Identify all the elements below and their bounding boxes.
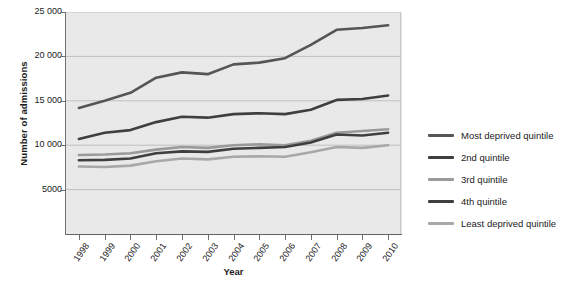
x-tick-label: 2004: [223, 241, 246, 268]
y-tick-mark: [60, 101, 66, 102]
y-tick-label: 5000: [18, 184, 62, 194]
x-tick-mark: [79, 235, 80, 240]
x-tick-label: 2007: [300, 241, 323, 268]
legend-label: 2nd quintile: [461, 152, 510, 163]
legend-item[interactable]: 2nd quintile: [428, 146, 568, 168]
legend-label: 3rd quintile: [461, 174, 507, 185]
x-tick-mark: [156, 235, 157, 240]
x-tick-mark: [362, 235, 363, 240]
y-tick-mark: [60, 190, 66, 191]
x-tick-mark: [182, 235, 183, 240]
x-tick-mark: [285, 235, 286, 240]
x-tick-label: 2001: [145, 241, 168, 268]
x-tick-mark: [234, 235, 235, 240]
x-tick-mark: [388, 235, 389, 240]
legend-swatch-icon: [428, 222, 454, 225]
legend-label: 4th quintile: [461, 196, 507, 207]
legend-item[interactable]: 3rd quintile: [428, 168, 568, 190]
legend-swatch-icon: [428, 200, 454, 203]
y-tick-label: 15 000: [18, 95, 62, 105]
x-tick-mark: [337, 235, 338, 240]
x-tick-mark: [208, 235, 209, 240]
y-tick-mark: [60, 12, 66, 13]
x-tick-label: 2010: [377, 241, 400, 268]
plot-area: [66, 12, 401, 234]
x-tick-label: 2009: [351, 241, 374, 268]
x-tick-mark: [311, 235, 312, 240]
series-line-0: [79, 25, 388, 108]
series-lines: [66, 12, 401, 234]
x-tick-label: 2003: [197, 241, 220, 268]
x-axis-title: Year: [66, 266, 401, 277]
legend-swatch-icon: [428, 134, 454, 137]
series-line-2: [79, 129, 388, 155]
x-tick-label: 2000: [120, 241, 143, 268]
y-tick-label: 10 000: [18, 139, 62, 149]
x-tick-label: 1998: [68, 241, 91, 268]
chart-legend: Most deprived quintile2nd quintile3rd qu…: [428, 124, 568, 234]
x-tick-label: 2002: [171, 241, 194, 268]
legend-swatch-icon: [428, 178, 454, 181]
admissions-line-chart: Number of admissions 500010 00015 00020 …: [0, 0, 571, 283]
legend-swatch-icon: [428, 156, 454, 159]
legend-label: Least deprived quintile: [461, 218, 556, 229]
x-tick-label: 2006: [274, 241, 297, 268]
y-tick-label: 20 000: [18, 50, 62, 60]
y-tick-mark: [60, 145, 66, 146]
legend-label: Most deprived quintile: [461, 130, 553, 141]
y-tick-mark: [60, 56, 66, 57]
y-tick-label: 25 000: [18, 6, 62, 16]
x-tick-mark: [130, 235, 131, 240]
legend-item[interactable]: Most deprived quintile: [428, 124, 568, 146]
x-tick-label: 2005: [248, 241, 271, 268]
x-tick-label: 1999: [94, 241, 117, 268]
x-tick-label: 2008: [326, 241, 349, 268]
x-tick-mark: [259, 235, 260, 240]
legend-item[interactable]: Least deprived quintile: [428, 212, 568, 234]
x-tick-mark: [105, 235, 106, 240]
y-axis-tick-labels: 500010 00015 00020 00025 000: [14, 0, 62, 283]
legend-item[interactable]: 4th quintile: [428, 190, 568, 212]
